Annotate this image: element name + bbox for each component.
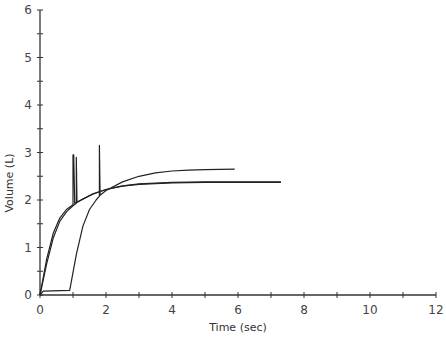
y-tick-label: 2 — [24, 193, 32, 207]
y-tick-label: 4 — [24, 98, 32, 112]
y-tick-label: 5 — [24, 51, 32, 65]
y-tick-label: 0 — [24, 288, 32, 302]
x-tick-label: 2 — [102, 303, 110, 317]
y-tick-label: 3 — [24, 146, 32, 160]
tick-labels: 0246810120123456 — [24, 3, 443, 317]
x-tick-label: 4 — [168, 303, 176, 317]
series-line-2 — [40, 157, 281, 295]
y-tick-label: 6 — [24, 3, 32, 17]
axes — [37, 10, 436, 298]
y-axis-title: Volume (L) — [3, 153, 16, 212]
series-line-3 — [40, 145, 235, 295]
x-tick-label: 10 — [362, 303, 377, 317]
y-tick-label: 1 — [24, 241, 32, 255]
x-tick-label: 0 — [36, 303, 44, 317]
volume-time-chart: 0246810120123456 Time (sec) Volume (L) — [0, 0, 446, 343]
x-tick-label: 8 — [300, 303, 308, 317]
x-tick-label: 6 — [234, 303, 242, 317]
x-tick-label: 12 — [428, 303, 443, 317]
series-lines — [40, 145, 281, 295]
x-axis-title: Time (sec) — [208, 321, 267, 334]
